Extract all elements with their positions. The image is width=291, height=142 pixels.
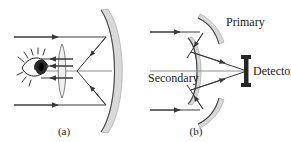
primary-label: Primary	[226, 15, 265, 29]
detector-label: Detector	[253, 64, 291, 78]
figure-container: (a)	[0, 0, 291, 142]
panel-a: (a)	[14, 9, 122, 138]
eyepiece-lens	[58, 44, 66, 98]
observer-eye	[17, 48, 48, 86]
panel-a-caption: (a)	[58, 125, 71, 138]
panel-b: Primary Secondary Detector (b)	[148, 14, 291, 138]
optics-diagram: (a)	[0, 0, 291, 142]
secondary-label: Secondary	[148, 71, 199, 85]
panel-b-caption: (b)	[190, 125, 203, 138]
